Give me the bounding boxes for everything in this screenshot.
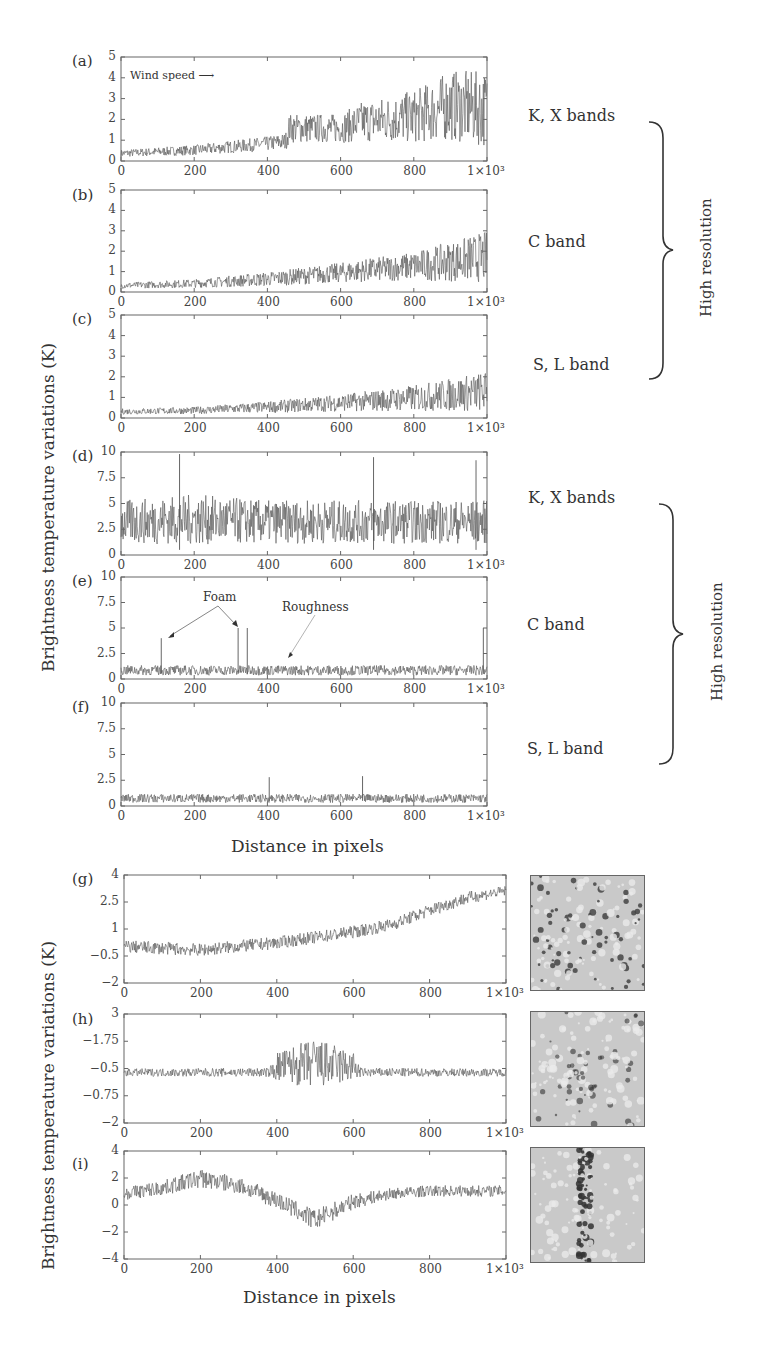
speckle-texture [531, 1012, 644, 1126]
sea-surface-image-h [530, 1011, 645, 1127]
speckle-texture [531, 1148, 644, 1262]
speckle-texture [531, 876, 644, 990]
sea-surface-image-g [530, 875, 645, 991]
sea-surface-image-i [530, 1147, 645, 1263]
annotation-arrows [0, 0, 761, 1345]
